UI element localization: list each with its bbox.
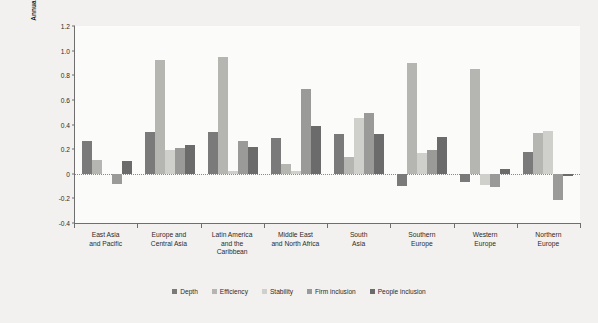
bar-slot: [533, 26, 543, 223]
x-axis-label: SouthernEurope: [390, 231, 453, 257]
bar: [354, 118, 364, 173]
bar-slot: [185, 26, 195, 223]
bar: [334, 134, 344, 173]
bar-slot: [364, 26, 374, 223]
x-axis-label: SouthAsia: [327, 231, 390, 257]
bar: [460, 174, 470, 183]
bar-slot: [92, 26, 102, 223]
bar-group-bars: [201, 26, 264, 223]
bar-slot: [281, 26, 291, 223]
legend-label: Depth: [180, 288, 198, 295]
bar-slot: [175, 26, 185, 223]
legend-item[interactable]: People inclusion: [370, 288, 426, 295]
bar: [553, 174, 563, 200]
bar: [281, 164, 291, 174]
x-axis-label: NorthernEurope: [517, 231, 580, 257]
plot-area: 1.21.00.80.60.40.20-0.2-0.4: [74, 26, 580, 223]
bar-slot: [271, 26, 281, 223]
bar-slot: [417, 26, 427, 223]
y-tick-label: 0.6: [19, 96, 75, 103]
bar: [248, 147, 258, 174]
y-tick-label: -0.4: [19, 220, 75, 227]
bar-groups: [75, 26, 580, 223]
legend-item[interactable]: Efficiency: [212, 288, 248, 295]
bar-slot: [155, 26, 165, 223]
x-axis-label: East Asiaand Pacific: [74, 231, 137, 257]
x-axis-label-line: Asia: [327, 240, 390, 249]
x-axis-label: Latin Americaand theCaribbean: [201, 231, 264, 257]
legend-swatch-icon: [307, 289, 312, 294]
bar-group-bars: [391, 26, 454, 223]
x-axis-labels: East Asiaand PacificEurope andCentral As…: [74, 231, 580, 257]
bar: [311, 126, 321, 174]
y-tick-label: 0.8: [19, 72, 75, 79]
bar-slot: [397, 26, 407, 223]
bar-slot: [208, 26, 218, 223]
bar-slot: [354, 26, 364, 223]
bar: [417, 153, 427, 174]
x-axis-label-line: Europe: [454, 240, 517, 249]
bar: [543, 131, 553, 174]
bar-slot: [218, 26, 228, 223]
x-axis-label-line: Europe and: [137, 231, 200, 240]
x-axis-tick: [74, 223, 75, 228]
bar: [344, 157, 354, 174]
bar: [500, 169, 510, 174]
x-axis-tick: [390, 223, 391, 228]
bar: [112, 174, 122, 184]
x-axis-label-line: Europe: [390, 240, 453, 249]
x-axis-tick: [454, 223, 455, 228]
legend-label: Stability: [270, 288, 293, 295]
bar: [470, 69, 480, 174]
x-axis-label-line: East Asia: [74, 231, 137, 240]
bar-slot: [460, 26, 470, 223]
bar-group-bars: [328, 26, 391, 223]
bar-group-bars: [454, 26, 517, 223]
bar: [533, 133, 543, 174]
bar: [523, 152, 533, 174]
bar-slot: [311, 26, 321, 223]
bar: [208, 132, 218, 174]
bar-group-bars: [75, 26, 138, 223]
bar-slot: [301, 26, 311, 223]
bar-slot: [248, 26, 258, 223]
legend-swatch-icon: [370, 289, 375, 294]
bar-slot: [427, 26, 437, 223]
bar: [92, 160, 102, 174]
bar: [490, 174, 500, 188]
bar: [291, 171, 301, 173]
x-axis-tick: [137, 223, 138, 228]
bar: [155, 60, 165, 173]
bar: [301, 89, 311, 174]
bar-slot: [165, 26, 175, 223]
x-axis-label-line: Europe: [517, 240, 580, 249]
bar-slot: [228, 26, 238, 223]
x-axis-label-line: Caribbean: [201, 248, 264, 257]
bar-slot: [543, 26, 553, 223]
bar-group-bars: [138, 26, 201, 223]
legend-item[interactable]: Firm inclusion: [307, 288, 356, 295]
x-axis-line: [74, 223, 580, 224]
bar: [407, 63, 417, 174]
x-axis-tick: [201, 223, 202, 228]
legend-label: Firm inclusion: [315, 288, 356, 295]
bar: [364, 113, 374, 173]
x-axis-label: Middle Eastand North Africa: [264, 231, 327, 257]
bar: [374, 134, 384, 173]
x-axis-label-line: Central Asia: [137, 240, 200, 249]
bar: [82, 141, 92, 174]
bar-slot: [344, 26, 354, 223]
x-axis-tick: [264, 223, 265, 228]
bar: [228, 171, 238, 173]
x-axis-label-line: Latin America: [201, 231, 264, 240]
legend-item[interactable]: Depth: [172, 288, 198, 295]
bar-group-bars: [264, 26, 327, 223]
bar-slot: [407, 26, 417, 223]
bar-group: [328, 26, 391, 223]
bar: [397, 174, 407, 186]
bar: [122, 161, 132, 173]
y-tick-label: 0: [19, 170, 75, 177]
x-axis-label-line: Northern: [517, 231, 580, 240]
x-axis-label: Europe andCentral Asia: [137, 231, 200, 257]
legend-item[interactable]: Stability: [262, 288, 293, 295]
